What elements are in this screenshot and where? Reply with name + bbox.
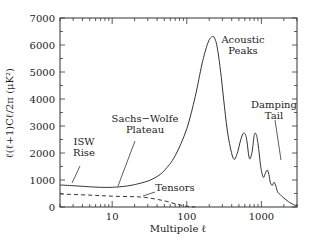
annotation-label: DampingTail xyxy=(251,99,298,121)
annotation-pointer xyxy=(118,141,135,186)
x-tick-label: 100 xyxy=(177,211,196,222)
y-tick-label: 1000 xyxy=(30,175,55,186)
annotation-pointer xyxy=(143,192,155,196)
cmb-power-spectrum-chart: 01000200030004000500060007000 101001000 … xyxy=(0,0,312,246)
x-tick-label: 10 xyxy=(106,211,119,222)
y-tick-label: 4000 xyxy=(30,94,55,105)
annotation-label: AcousticPeaks xyxy=(220,34,265,56)
y-tick-label: 7000 xyxy=(30,13,55,24)
scalar-curve xyxy=(60,36,297,206)
y-tick-label: 0 xyxy=(49,202,55,213)
y-tick-label: 2000 xyxy=(30,148,55,159)
annotations: ISWRiseSachs−WolfePlateauAcousticPeaksDa… xyxy=(72,34,298,196)
x-axis-label: Multipole ℓ xyxy=(150,223,207,234)
y-tick-label: 3000 xyxy=(30,121,55,132)
y-axis-label: ℓ(ℓ+1)Cℓ/2π (μK²) xyxy=(4,68,15,158)
plot-frame xyxy=(60,18,297,207)
annotation-label: ISWRise xyxy=(73,136,95,158)
x-tick-label: 1000 xyxy=(249,211,274,222)
annotation-pointer xyxy=(275,120,281,160)
y-tick-label: 6000 xyxy=(30,40,55,51)
annotation-pointer xyxy=(72,166,80,183)
annotation-label: Tensors xyxy=(155,182,194,193)
annotation-label: Sachs−WolfePlateau xyxy=(112,113,179,135)
y-tick-label: 5000 xyxy=(30,67,55,78)
